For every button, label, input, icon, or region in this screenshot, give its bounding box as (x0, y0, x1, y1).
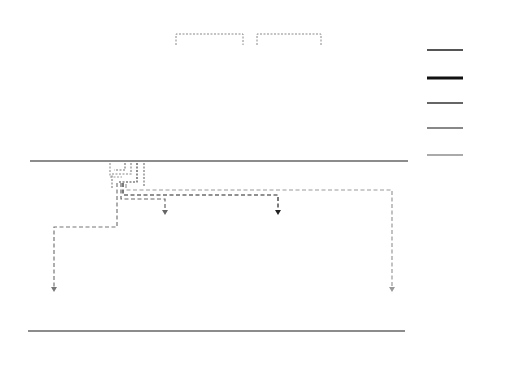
legend (0, 0, 463, 155)
mixing-connectors (51, 163, 395, 292)
rep-sig-bracket (257, 34, 321, 45)
frequency-diagram (0, 0, 513, 373)
rep-lo-bracket (176, 34, 243, 45)
